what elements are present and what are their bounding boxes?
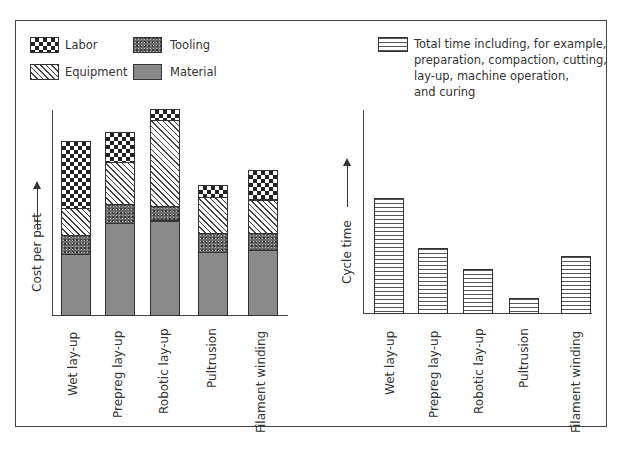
bar-segment-equipment [105, 162, 135, 205]
bar-segment-material [150, 221, 180, 317]
legend-label-total-time: Total time including, for example, prepa… [414, 36, 607, 100]
bar-segment-tooling [150, 206, 180, 222]
cycle-bar-prepreg-lay-up [418, 248, 448, 314]
cycle-bar-filament-winding [561, 256, 591, 314]
bar-segment-equipment [198, 197, 228, 234]
cycle-axis-arrow-line [347, 165, 348, 207]
legend-line-2: preparation, compaction, cutting, [414, 52, 607, 68]
bar-segment-material [248, 250, 278, 316]
labor-swatch-icon [30, 37, 59, 53]
cycle-x-label-prepreg-layup: Prepreg lay-up [427, 331, 441, 418]
bar-segment-material [198, 252, 228, 316]
cost-y-label: Cost per part [30, 213, 44, 292]
bar-segment-tooling [105, 204, 135, 224]
bar-segment-material [61, 254, 91, 316]
bar-segment-labor [198, 185, 228, 199]
cost-x-label-pultrusion: Pultrusion [205, 328, 219, 388]
cost-x-label-wet-layup: Wet lay-up [66, 332, 80, 396]
bar-segment-equipment [150, 120, 180, 207]
cost-y-axis [52, 110, 53, 316]
legend-label-material: Material [170, 65, 217, 79]
bar-segment-equipment [61, 208, 91, 236]
cycle-y-axis [363, 110, 364, 314]
bar-segment-tooling [198, 233, 228, 253]
up-arrow-icon [33, 181, 41, 189]
cycle-bar-pultrusion [509, 298, 539, 314]
cycle-x-label-pultrusion: Pultrusion [517, 328, 531, 388]
cost-x-label-robotic-layup: Robotic lay-up [157, 328, 171, 414]
cycle-x-label-filament-winding: Filament winding [569, 331, 583, 433]
legend-line-1: Total time including, for example, [414, 36, 607, 52]
bar-segment-labor [248, 170, 278, 200]
legend-label-tooling: Tooling [170, 38, 210, 52]
legend-line-3: lay-up, machine operation, [414, 68, 607, 84]
bar-segment-labor [150, 109, 180, 121]
tooling-swatch-icon [133, 37, 162, 53]
equipment-swatch-icon [30, 64, 59, 80]
cycle-bar-wet-lay-up [374, 198, 404, 315]
bar-segment-equipment [248, 200, 278, 235]
bar-segment-material [105, 223, 135, 316]
legend-label-equipment: Equipment [65, 65, 127, 79]
bar-segment-tooling [61, 235, 91, 255]
cost-x-label-filament-winding: Filament winding [254, 331, 268, 433]
bar-segment-labor [105, 132, 135, 162]
legend-line-4: and curing [414, 84, 607, 100]
cycle-y-label: Cycle time [340, 220, 354, 284]
bar-segment-labor [61, 141, 91, 209]
cost-x-label-prepreg-layup: Prepreg lay-up [111, 331, 125, 418]
material-swatch-icon [133, 64, 162, 80]
total-time-swatch-icon [378, 37, 408, 52]
up-arrow-icon [343, 158, 351, 166]
cycle-bar-robotic-lay-up [463, 269, 493, 314]
bar-segment-tooling [248, 233, 278, 251]
cycle-x-label-wet-layup: Wet lay-up [383, 331, 397, 395]
legend-label-labor: Labor [65, 38, 98, 52]
cycle-x-label-robotic-layup: Robotic lay-up [472, 328, 486, 414]
